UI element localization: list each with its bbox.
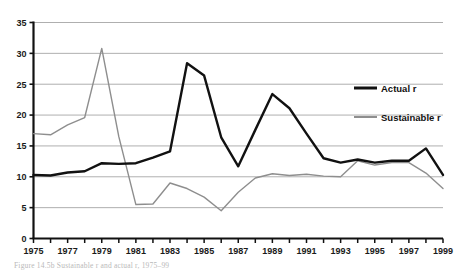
x-axis-tick-label: 1997 xyxy=(399,246,419,256)
x-axis-tick-label: 1981 xyxy=(126,246,146,256)
y-axis-tick-label: 25 xyxy=(16,80,26,90)
legend-label-sustainable-r: Sustainable r xyxy=(381,112,441,123)
y-axis-tick-label: 20 xyxy=(16,110,26,120)
y-axis-tick-label: 10 xyxy=(16,172,26,182)
y-axis-tick-label: 35 xyxy=(16,18,26,28)
series-line-sustainable-r xyxy=(34,48,444,210)
x-axis-tick-label: 1975 xyxy=(23,246,43,256)
x-axis-tick-labels: 1975197719791981198319851987198919911993… xyxy=(23,246,453,256)
y-axis-tick-label: 0 xyxy=(21,234,26,244)
legend-label-actual-r: Actual r xyxy=(381,83,417,94)
x-axis-tick-label: 1995 xyxy=(365,246,385,256)
y-axis-tick-label: 30 xyxy=(16,49,26,59)
x-axis-tick-label: 1999 xyxy=(433,246,453,256)
y-axis-tick-labels: 05101520253035 xyxy=(16,18,26,244)
x-axis-tick-label: 1983 xyxy=(160,246,180,256)
y-axis-tick-label: 15 xyxy=(16,141,26,151)
x-axis-tick-label: 1977 xyxy=(58,246,78,256)
x-axis-tick-label: 1987 xyxy=(228,246,248,256)
line-chart: 05101520253035 1975197719791981198319851… xyxy=(0,0,456,274)
x-axis-tick-label: 1991 xyxy=(296,246,316,256)
x-axis-tick-label: 1979 xyxy=(92,246,112,256)
y-axis-tick-label: 5 xyxy=(21,203,26,213)
x-axis-tick-label: 1993 xyxy=(331,246,351,256)
chart-legend: Actual rSustainable r xyxy=(354,83,441,123)
figure-caption: Figure 14.5b Sustainable r and actual r,… xyxy=(14,261,454,270)
x-axis-tick-label: 1985 xyxy=(194,246,214,256)
data-series-group xyxy=(34,48,444,210)
figure-container: 05101520253035 1975197719791981198319851… xyxy=(0,0,456,274)
x-axis-tick-label: 1989 xyxy=(262,246,282,256)
